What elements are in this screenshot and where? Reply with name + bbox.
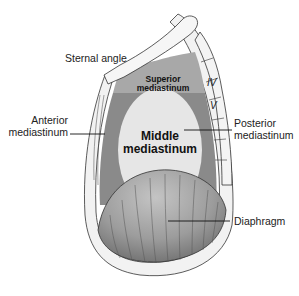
label-sternal-angle: Sternal angle	[65, 52, 127, 64]
region-middle-label: Middle mediastinum	[118, 130, 202, 155]
middle-line1: Middle	[118, 130, 202, 143]
label-anterior-line2: mediastinum	[8, 126, 68, 138]
label-anterior-line1: Anterior	[8, 114, 68, 126]
region-superior-label: Superior mediastinum	[128, 75, 198, 93]
label-posterior-line1: Posterior	[234, 117, 294, 129]
label-posterior-mediastinum: Posterior mediastinum	[234, 117, 294, 141]
vertebra-v-label: V	[210, 100, 217, 111]
label-posterior-line2: mediastinum	[234, 129, 294, 141]
superior-line2: mediastinum	[128, 84, 198, 93]
vertebra-iv-label: IV	[207, 77, 216, 88]
label-diaphragm: Diaphragm	[234, 215, 285, 227]
label-anterior-mediastinum: Anterior mediastinum	[8, 114, 68, 138]
middle-line2: mediastinum	[118, 143, 202, 156]
